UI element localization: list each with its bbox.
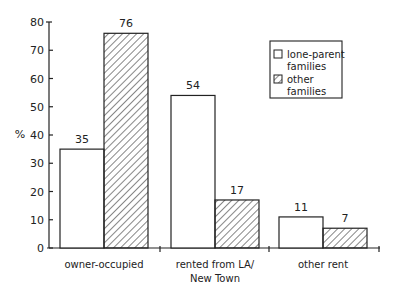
legend: lone-parentfamiliesotherfamilies — [270, 41, 345, 98]
x-category-label: rented from LA/ — [176, 259, 255, 270]
legend-label: other — [287, 74, 315, 85]
y-tick-label: 10 — [30, 214, 44, 227]
bar-lone-parent-0 — [60, 149, 104, 248]
bar-value-label: 11 — [294, 201, 308, 214]
y-tick-label: 60 — [30, 73, 44, 86]
bar-value-label: 76 — [119, 17, 133, 30]
bar-other-1 — [215, 200, 259, 248]
y-axis-label: % — [15, 128, 25, 141]
x-category-label: New Town — [190, 273, 240, 284]
y-tick-label: 80 — [30, 16, 44, 29]
y-tick-label: 0 — [37, 242, 44, 255]
y-tick-label: 20 — [30, 186, 44, 199]
bar-value-label: 17 — [230, 184, 244, 197]
x-category-label: owner-occupied — [64, 259, 143, 270]
bar-lone-parent-2 — [279, 217, 323, 248]
y-tick-label: 70 — [30, 44, 44, 57]
legend-label: lone-parent — [287, 49, 345, 60]
bar-value-label: 54 — [186, 79, 200, 92]
bar-other-0 — [104, 33, 148, 248]
x-category-label: other rent — [298, 259, 348, 270]
bar-value-label: 35 — [75, 133, 89, 146]
legend-label: families — [287, 61, 326, 72]
legend-swatch-1 — [274, 75, 282, 83]
bar-other-2 — [323, 228, 367, 248]
bar-lone-parent-1 — [171, 95, 215, 248]
bar-chart: 01020304050607080%owner-occupiedrented f… — [0, 0, 395, 291]
legend-label: families — [287, 86, 326, 97]
legend-swatch-0 — [274, 50, 282, 58]
y-tick-label: 30 — [30, 157, 44, 170]
y-tick-label: 40 — [30, 129, 44, 142]
y-tick-label: 50 — [30, 101, 44, 114]
bar-value-label: 7 — [342, 212, 349, 225]
